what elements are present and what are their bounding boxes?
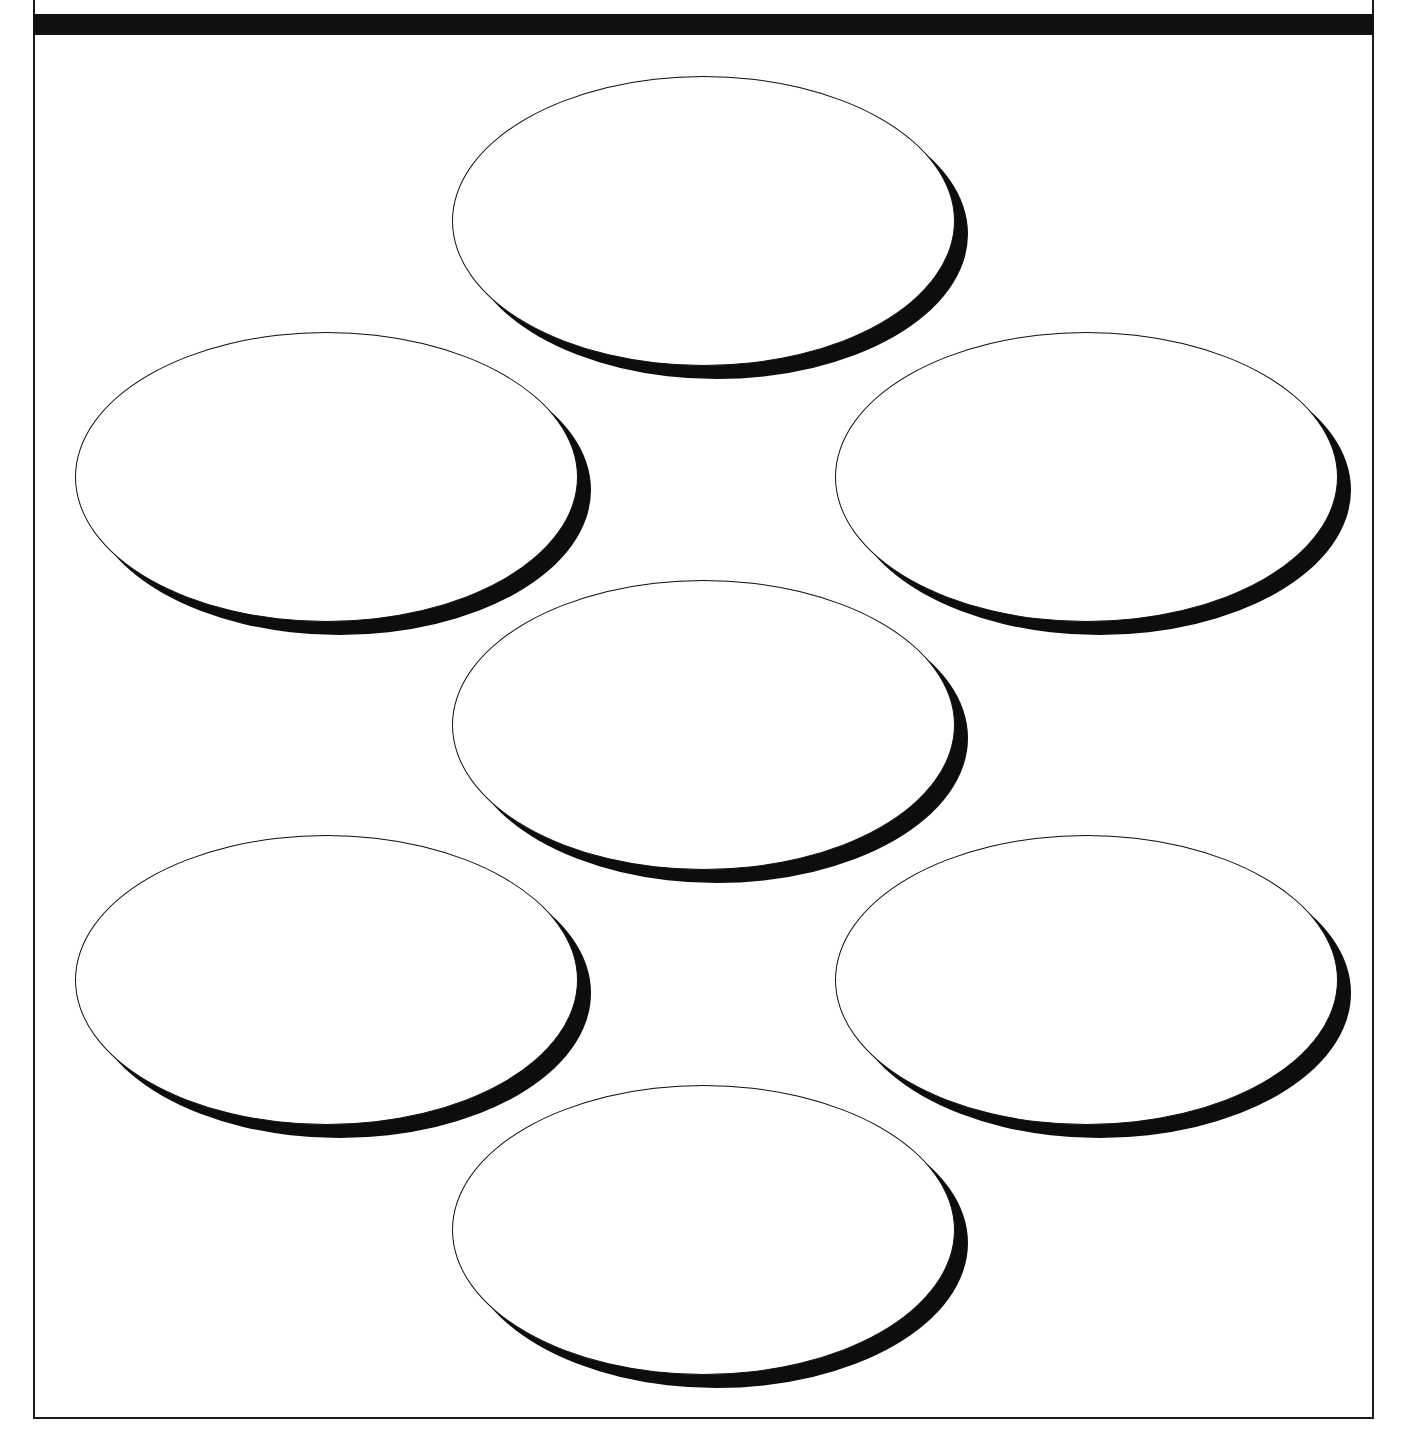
ellipse-field <box>0 0 1411 1441</box>
worksheet-page <box>0 0 1411 1441</box>
ellipse-face[interactable] <box>75 332 578 622</box>
ellipse-face[interactable] <box>835 835 1338 1125</box>
ellipse-face[interactable] <box>452 76 955 366</box>
ellipse-face[interactable] <box>75 835 578 1125</box>
ellipse-bottom-center[interactable] <box>452 1085 969 1389</box>
ellipse-face[interactable] <box>452 580 955 870</box>
ellipse-face[interactable] <box>452 1085 955 1375</box>
ellipse-face[interactable] <box>835 332 1338 622</box>
